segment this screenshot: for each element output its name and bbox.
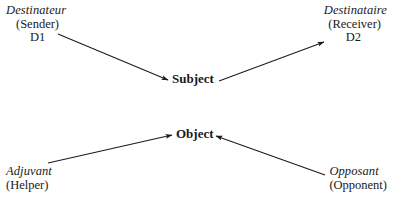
node-receiver-french: Destinataire	[324, 4, 387, 18]
node-sender-english: (Sender)	[6, 18, 66, 32]
node-opponent: Opposant (Opponent)	[329, 165, 387, 192]
node-helper-english: (Helper)	[6, 179, 52, 193]
actantial-model-diagram: Destinateur (Sender) D1 Destinataire (Re…	[0, 0, 393, 209]
node-helper-french: Adjuvant	[6, 165, 52, 179]
node-receiver: Destinataire (Receiver) D2	[324, 4, 387, 45]
node-helper: Adjuvant (Helper)	[6, 165, 52, 192]
arrow-opponent-to-object	[216, 136, 325, 175]
node-subject: Subject	[172, 72, 214, 86]
node-opponent-french: Opposant	[329, 165, 387, 179]
arrow-sender-to-subject	[58, 34, 168, 80]
arrow-subject-to-receiver	[219, 42, 324, 81]
node-receiver-code: D2	[324, 31, 387, 45]
node-sender-code: D1	[6, 31, 66, 45]
arrow-helper-to-object	[48, 135, 172, 163]
node-object: Object	[176, 127, 214, 141]
node-sender: Destinateur (Sender) D1	[6, 4, 66, 45]
node-opponent-english: (Opponent)	[329, 179, 387, 193]
node-receiver-english: (Receiver)	[324, 18, 387, 32]
node-sender-french: Destinateur	[6, 4, 66, 18]
